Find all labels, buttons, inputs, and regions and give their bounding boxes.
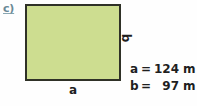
- measurement-unit: m: [179, 62, 196, 76]
- measurement-value: 97: [154, 79, 179, 93]
- measurement-variable: a: [130, 62, 141, 76]
- measurement-value: 124: [154, 62, 179, 76]
- side-label-a: a: [25, 84, 121, 96]
- measurement-row: a = 124 m: [130, 62, 196, 79]
- exercise-figure-canvas: c) a b a = 124 m b = 97 m: [0, 0, 197, 106]
- measurement-variable: b: [130, 79, 141, 93]
- measurement-list: a = 124 m b = 97 m: [130, 62, 196, 96]
- measurement-unit: m: [179, 79, 196, 93]
- rectangle-shape: [25, 4, 121, 81]
- side-label-b: b: [120, 30, 132, 46]
- measurement-row: b = 97 m: [130, 79, 196, 96]
- measurement-equals: =: [141, 79, 154, 93]
- measurement-equals: =: [141, 62, 154, 76]
- exercise-item-label: c): [3, 2, 14, 15]
